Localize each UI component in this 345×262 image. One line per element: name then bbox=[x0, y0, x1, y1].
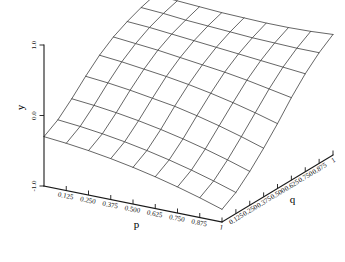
mesh-line-constant-q bbox=[58, 120, 236, 193]
mesh-line-constant-p bbox=[111, 13, 222, 159]
mesh-line-constant-p bbox=[222, 34, 333, 209]
y-axis-title: q bbox=[290, 193, 296, 205]
mesh-line-constant-q bbox=[155, 0, 333, 34]
surface-plot-figure: 0.1250.2500.3750.5000.6250.7500.87510.12… bbox=[0, 0, 345, 262]
mesh-line-constant-p bbox=[155, 23, 266, 177]
mesh-line-constant-p bbox=[44, 0, 155, 137]
mesh-line-constant-p bbox=[89, 7, 200, 151]
x-axis-title: p bbox=[134, 218, 140, 230]
mesh-line-constant-p bbox=[200, 31, 311, 197]
z-axis-tick-label: 1.0 bbox=[30, 40, 38, 49]
mesh-line-constant-p bbox=[66, 1, 177, 143]
mesh-line-constant-q bbox=[113, 37, 291, 98]
z-axis-title: y bbox=[14, 104, 26, 110]
x-axis-tick-label: 1 bbox=[219, 223, 225, 232]
mesh-line-constant-p bbox=[133, 18, 244, 167]
surface-mesh bbox=[44, 0, 333, 209]
y-axis-tick-label: 1 bbox=[330, 156, 338, 165]
surface-plot-canvas: 0.1250.2500.3750.5000.6250.7500.87510.12… bbox=[0, 0, 345, 262]
mesh-line-constant-q bbox=[100, 55, 278, 123]
z-axis-tick-label: 0.0 bbox=[30, 111, 38, 120]
z-axis-tick-label: -1.0 bbox=[30, 180, 38, 192]
y-axis-tick-label: 0.875 bbox=[311, 161, 329, 176]
mesh-line-constant-q bbox=[72, 99, 250, 172]
